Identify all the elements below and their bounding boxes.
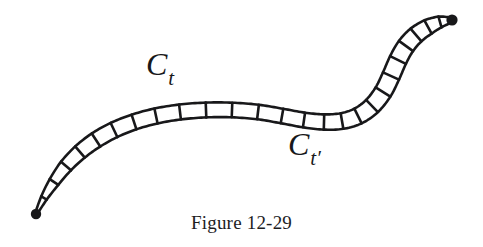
band-rung xyxy=(354,109,361,124)
curve-label-ct-prime-base: C xyxy=(288,126,309,162)
band-rung xyxy=(154,109,157,124)
band-edge xyxy=(35,17,451,214)
curve-label-ct-subscript: t xyxy=(168,66,174,90)
right-endpoint-dot xyxy=(446,14,457,25)
band-rung xyxy=(179,105,181,120)
band-rung xyxy=(390,56,406,64)
band-rung xyxy=(438,17,441,28)
homotopy-band-diagram xyxy=(0,0,483,247)
band-rung xyxy=(376,87,391,96)
band-rung xyxy=(206,103,207,118)
figure-caption: Figure 12-29 xyxy=(0,212,483,234)
band-rung xyxy=(232,103,233,118)
band-rung xyxy=(424,20,431,33)
curve-label-ct: Ct xyxy=(146,48,173,83)
band-rung xyxy=(41,196,47,199)
ribbon-band-group xyxy=(35,17,452,215)
band-rung xyxy=(411,29,422,42)
band-rung xyxy=(50,179,59,185)
band-rung xyxy=(341,113,344,129)
curve-label-ct-base: C xyxy=(146,46,167,82)
band-rung xyxy=(257,105,259,120)
curve-label-ct-prime-subscript: t′ xyxy=(310,146,320,170)
curve-label-ct-prime: Ct′ xyxy=(288,128,320,163)
band-rung xyxy=(132,115,137,130)
band-rung xyxy=(61,162,71,171)
band-edge xyxy=(37,22,453,214)
band-rung xyxy=(111,123,118,137)
band-rung xyxy=(281,109,284,123)
band-rung xyxy=(92,133,100,146)
band-rung xyxy=(366,100,378,112)
band-rung xyxy=(75,146,85,157)
band-rung xyxy=(383,72,399,79)
figure-container: Ct Ct′ Figure 12-29 xyxy=(0,0,483,247)
band-rung xyxy=(399,41,413,51)
